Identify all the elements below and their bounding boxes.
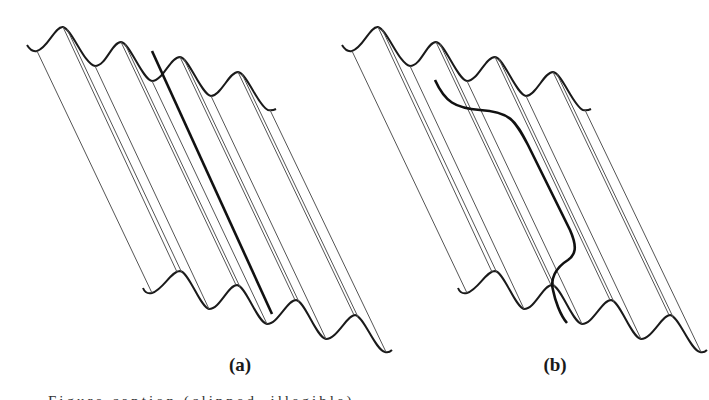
panel-a — [27, 27, 392, 352]
panel-label-a: (a) — [229, 354, 251, 376]
corrugated-sheet-b — [342, 27, 707, 352]
corrugated-sheet-a — [27, 27, 392, 352]
figure-canvas — [0, 0, 709, 400]
figure-caption: Figure caption (clipped, illegible) — [48, 393, 658, 400]
panel-b — [342, 27, 707, 352]
panel-label-b: (b) — [543, 354, 566, 376]
